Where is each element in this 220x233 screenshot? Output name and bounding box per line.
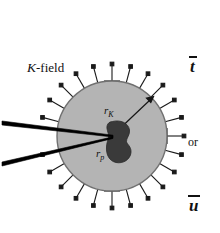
k-field-label: K-field bbox=[27, 61, 64, 75]
or-label: or bbox=[188, 136, 198, 148]
rp-label: rp bbox=[96, 148, 104, 162]
rp-subscript: p bbox=[100, 153, 104, 162]
rk-subscript: K bbox=[108, 110, 113, 119]
fracture-mechanics-diagram: K-field rK rp or t u bbox=[0, 0, 220, 233]
rk-label: rK bbox=[104, 105, 114, 119]
traction-vector-label: t bbox=[190, 57, 195, 75]
displacement-vector-label: u bbox=[189, 196, 198, 214]
k-field-symbol: K bbox=[27, 60, 36, 75]
t-bar-symbol: t bbox=[190, 57, 195, 75]
k-field-suffix: -field bbox=[36, 60, 64, 75]
u-bar-symbol: u bbox=[189, 196, 198, 214]
